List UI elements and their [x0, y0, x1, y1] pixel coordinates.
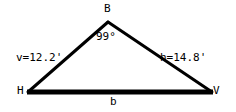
- triangle-diagram: B 99° v=12.2' h=14.8' H V b: [0, 0, 236, 112]
- angle-label-b: 99°: [96, 31, 116, 42]
- vertex-label-v: V: [213, 85, 220, 96]
- vertex-label-h: H: [17, 85, 24, 96]
- vertex-label-b: B: [104, 3, 111, 14]
- side-label-v: v=12.2': [16, 52, 62, 63]
- side-label-h: h=14.8': [160, 52, 206, 63]
- side-label-b: b: [110, 96, 117, 107]
